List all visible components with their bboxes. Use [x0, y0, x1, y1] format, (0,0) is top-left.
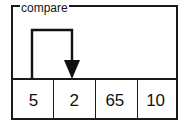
array-cell-1-value: 2 — [69, 92, 78, 109]
array-cell-3-value: 10 — [146, 92, 165, 109]
compare-caption: compare — [20, 1, 69, 15]
array-cell-2-value: 65 — [105, 92, 124, 109]
array-cell-0-value: 5 — [29, 92, 38, 109]
array-row: 5 2 65 10 — [13, 80, 176, 120]
compare-diagram: 5 2 65 10 compare — [0, 0, 188, 129]
array-cell-3: 10 — [135, 80, 176, 120]
array-cell-1: 2 — [54, 80, 95, 120]
array-cell-0: 5 — [13, 80, 54, 120]
array-cell-2: 65 — [95, 80, 136, 120]
